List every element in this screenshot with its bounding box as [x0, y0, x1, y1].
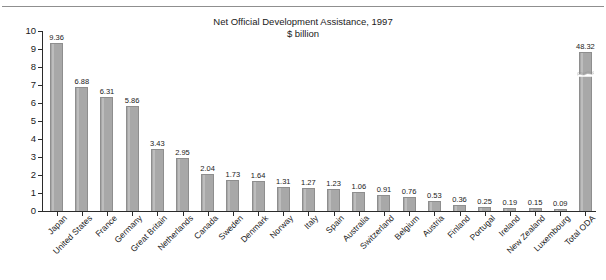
clipped-header-text	[0, 0, 606, 3]
bar-rect	[403, 197, 416, 211]
bar-value-label: 2.04	[200, 164, 215, 173]
x-axis-label: Norway	[268, 213, 295, 240]
bar-rect	[226, 180, 239, 211]
bar: 0.53	[428, 201, 441, 211]
bar: 2.95	[176, 158, 189, 211]
bar-rect	[302, 188, 315, 211]
bar-highlight	[52, 44, 54, 211]
bar-highlight	[153, 150, 155, 211]
y-axis-label: 2	[16, 170, 36, 180]
bar-value-label: 0.19	[503, 198, 518, 207]
bar: 6.31	[100, 97, 113, 211]
bar: 0.19	[503, 208, 516, 211]
plot-area: 012345678910 9.366.886.315.863.432.952.0…	[42, 31, 596, 212]
bar-rect	[428, 201, 441, 211]
bar-value-label: 5.86	[125, 96, 140, 105]
bar: 0.91	[377, 195, 390, 211]
y-axis-label: 3	[16, 152, 36, 162]
x-axis-label: Portugal	[467, 213, 496, 242]
bar-highlight	[203, 175, 205, 211]
bar: 6.88	[75, 87, 88, 211]
bar-highlight	[304, 189, 306, 211]
bar: 1.31	[277, 187, 290, 211]
bar-rect	[201, 174, 214, 211]
bar: 2.04	[201, 174, 214, 211]
bar-highlight	[178, 159, 180, 211]
bar: 1.23	[327, 189, 340, 211]
bar-value-label: 1.31	[276, 177, 291, 186]
bar-value-label: 0.91	[377, 185, 392, 194]
bar: 0.15	[529, 208, 542, 211]
axis-break-mark	[577, 69, 594, 80]
bar-value-label: 1.73	[226, 170, 241, 179]
bar-highlight	[405, 198, 407, 211]
y-axis-label: 10	[16, 26, 36, 36]
bar: 0.76	[403, 197, 416, 211]
x-axis-label: Belgium	[392, 213, 421, 242]
bar-rect	[529, 208, 542, 211]
bar-value-label: 1.64	[251, 171, 266, 180]
bar-series: 9.366.886.315.863.432.952.041.731.641.31…	[42, 31, 596, 212]
bar-rect	[453, 205, 466, 211]
bar-value-label: 0.15	[528, 198, 543, 207]
bar: 1.64	[252, 181, 265, 211]
bar-rect	[277, 187, 290, 211]
bar-rect	[503, 208, 516, 211]
bar-highlight	[505, 209, 507, 211]
bar-rect	[554, 209, 567, 211]
y-axis-label: 8	[16, 62, 36, 72]
bar-rect	[100, 97, 113, 211]
bar-value-label: 0.09	[553, 199, 568, 208]
bar-rect	[377, 195, 390, 211]
bar: 0.36	[453, 205, 466, 211]
bar-highlight	[329, 190, 331, 211]
bar-highlight	[228, 181, 230, 211]
bar-highlight	[102, 98, 104, 211]
bar-highlight	[455, 206, 457, 211]
bar-rect	[151, 149, 164, 211]
x-axis-label: Austria	[421, 213, 447, 239]
bar: 0.09	[554, 209, 567, 211]
x-axis-label: Italy	[302, 213, 320, 231]
bar-highlight	[556, 210, 558, 211]
y-axis-label: 5	[16, 116, 36, 126]
bar-value-label: 0.53	[427, 191, 442, 200]
bar-highlight	[128, 107, 130, 211]
x-axis-category-labels: JapanUnited StatesFranceGermanyGreat Bri…	[42, 213, 606, 280]
bar-value-label: 6.31	[100, 87, 115, 96]
bar-rect	[352, 192, 365, 211]
x-axis-label: Canada	[192, 213, 220, 241]
y-axis-label: 6	[16, 98, 36, 108]
bar: 9.36	[50, 43, 63, 211]
bar-highlight	[531, 209, 533, 211]
bar-value-label: 6.88	[74, 77, 89, 86]
y-axis-label: 9	[16, 44, 36, 54]
y-axis-label: 1	[16, 188, 36, 198]
bar: 48.32	[579, 52, 592, 211]
bar-rect	[327, 189, 340, 211]
bar: 1.06	[352, 192, 365, 211]
bar-highlight	[430, 202, 432, 211]
bar-highlight	[254, 182, 256, 211]
bar-rect	[126, 106, 139, 211]
chart-title: Net Official Development Assistance, 199…	[0, 16, 606, 28]
bar-value-label: 1.06	[351, 182, 366, 191]
bar-value-label: 0.36	[452, 195, 467, 204]
bar-highlight	[77, 88, 79, 211]
bar: 1.27	[302, 188, 315, 211]
x-axis-label: Spain	[323, 213, 345, 235]
bar-value-label: 0.25	[477, 197, 492, 206]
bar-rect	[478, 207, 491, 212]
y-axis-label: 7	[16, 80, 36, 90]
bar-value-label: 48.32	[576, 42, 595, 51]
bar-highlight	[354, 193, 356, 211]
bar-value-label: 3.43	[150, 139, 165, 148]
bar-rect	[50, 43, 63, 211]
chart-page: Net Official Development Assistance, 199…	[0, 0, 606, 280]
bar-value-label: 1.27	[301, 178, 316, 187]
bar-value-label: 0.76	[402, 187, 417, 196]
bar: 0.25	[478, 207, 491, 212]
header-rule	[2, 6, 604, 7]
bar-highlight	[480, 208, 482, 212]
bar-value-label: 9.36	[49, 33, 64, 42]
